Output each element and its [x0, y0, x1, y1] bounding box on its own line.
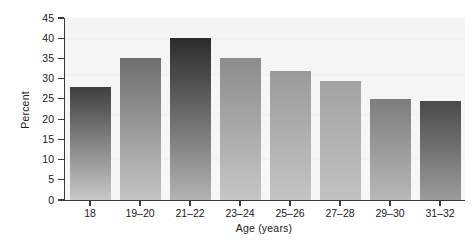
y-tick-mark [58, 98, 64, 99]
x-tick-mark [139, 201, 140, 206]
y-tick-label: 30 [8, 73, 54, 83]
bar [420, 101, 461, 200]
bar [370, 99, 411, 200]
bar [220, 58, 261, 200]
x-tick-mark [439, 201, 440, 206]
y-tick-mark [58, 139, 64, 140]
y-tick-label: 45 [8, 13, 54, 23]
x-axis-line [64, 200, 465, 201]
y-tick-mark [58, 199, 64, 200]
x-tick-mark [289, 201, 290, 206]
bar [270, 71, 311, 200]
y-tick-mark [58, 17, 64, 18]
x-tick-mark [389, 201, 390, 206]
x-tick-mark [189, 201, 190, 206]
y-tick-label: 10 [8, 154, 54, 164]
bar [320, 81, 361, 200]
y-tick-label: 5 [8, 174, 54, 184]
y-tick-mark [58, 58, 64, 59]
y-tick-mark [58, 179, 64, 180]
x-tick-mark [339, 201, 340, 206]
bar [170, 38, 211, 200]
y-tick-label: 20 [8, 114, 54, 124]
x-tick-label: 31–32 [410, 207, 470, 219]
bar-chart-figure: Percent 051015202530354045 1819–2021–222… [0, 0, 475, 244]
y-tick-mark [58, 38, 64, 39]
x-tick-mark [239, 201, 240, 206]
y-tick-label: 25 [8, 93, 54, 103]
y-tick-mark [58, 78, 64, 79]
bar [120, 58, 161, 200]
y-tick-label: 15 [8, 134, 54, 144]
y-axis-line [64, 18, 65, 201]
y-tick-label: 40 [8, 33, 54, 43]
y-tick-mark [58, 159, 64, 160]
x-axis-title: Age (years) [64, 222, 464, 234]
x-tick-mark [89, 201, 90, 206]
y-tick-label: 35 [8, 53, 54, 63]
bar [70, 87, 111, 200]
y-tick-label: 0 [8, 195, 54, 205]
y-tick-mark [58, 119, 64, 120]
